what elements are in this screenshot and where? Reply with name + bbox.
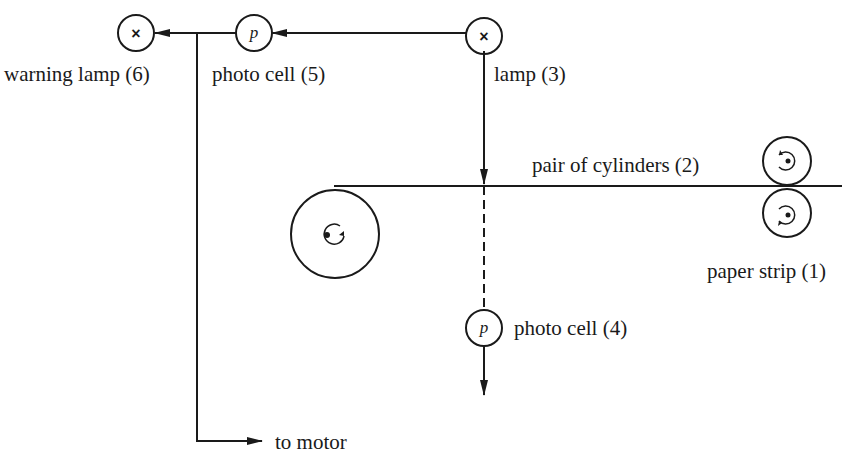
cross-icon: × bbox=[479, 28, 488, 45]
p-icon: p bbox=[249, 23, 259, 42]
signal-to-motor bbox=[197, 33, 262, 441]
paper-roll bbox=[291, 190, 379, 278]
photo-cell-5-label: photo cell (5) bbox=[212, 64, 325, 85]
motor-label: to motor bbox=[275, 432, 347, 453]
cylinders-label: pair of cylinders (2) bbox=[532, 155, 699, 176]
p-icon: p bbox=[479, 318, 489, 337]
paper-strip-label: paper strip (1) bbox=[707, 261, 826, 282]
lamp-label: lamp (3) bbox=[494, 64, 566, 85]
warning-lamp-label: warning lamp (6) bbox=[4, 64, 150, 85]
photo-cell-4-label: photo cell (4) bbox=[514, 318, 627, 339]
cross-icon: × bbox=[131, 25, 140, 42]
